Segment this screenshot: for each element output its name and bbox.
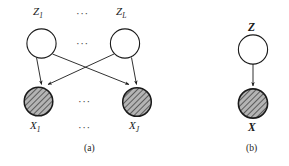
edge-z1-to-xj <box>53 54 130 85</box>
edge-z1-to-x1 <box>37 58 42 85</box>
node-zl <box>110 29 139 58</box>
node-x-bold <box>238 89 267 118</box>
node-xj <box>123 88 152 117</box>
node-z1 <box>27 29 56 58</box>
caption-panel-a: (a) <box>84 144 95 154</box>
ellipsis-observed-row: ··· <box>78 96 91 107</box>
node-x1 <box>24 87 53 116</box>
ellipsis-bottom-row: ··· <box>78 122 91 133</box>
label-xj-subscript: J <box>136 125 139 134</box>
label-xj-base: X <box>129 119 136 131</box>
label-zl-subscript: L <box>122 11 126 20</box>
edge-group-panel-a <box>37 54 137 85</box>
label-z1-subscript: 1 <box>39 11 43 20</box>
label-x1-base: X <box>30 119 37 131</box>
figure-graphical-model: Z1 ZL X1 XJ ··· ··· ··· ··· Z X (a) (b) <box>0 0 289 166</box>
label-zl: ZL <box>116 6 126 20</box>
label-xj: XJ <box>129 120 139 134</box>
label-z-bold: Z <box>248 22 255 34</box>
edge-zl-to-xj <box>132 58 137 85</box>
ellipsis-top-row: ··· <box>76 8 89 19</box>
edge-zl-to-x1 <box>48 54 114 85</box>
diagram-canvas <box>0 0 289 166</box>
label-z1: Z1 <box>33 6 43 20</box>
ellipsis-latent-row: ··· <box>76 38 89 49</box>
label-x-bold: X <box>248 122 256 134</box>
label-x1: X1 <box>30 120 40 134</box>
label-x1-subscript: 1 <box>37 125 41 134</box>
caption-panel-b: (b) <box>246 144 257 154</box>
node-z-bold <box>238 35 267 64</box>
